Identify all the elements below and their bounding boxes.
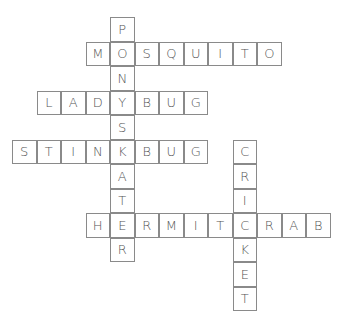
crossword-cell: M [86, 42, 111, 67]
crossword-cell: B [135, 91, 160, 116]
crossword-cell: G [184, 140, 209, 165]
crossword-cell: P [110, 17, 135, 42]
crossword-cell: H [86, 213, 111, 238]
crossword-cell: U [184, 42, 209, 67]
crossword-cell: U [159, 140, 184, 165]
crossword-cell: A [110, 164, 135, 189]
crossword-cell: T [208, 213, 233, 238]
crossword-cell: U [159, 91, 184, 116]
crossword-cell: N [110, 66, 135, 91]
crossword-cell: Q [159, 42, 184, 67]
crossword-cell: N [86, 140, 111, 165]
crossword-cell: Y [110, 91, 135, 116]
crossword-cell: G [184, 91, 209, 116]
crossword-cell: T [233, 42, 258, 67]
crossword-cell: I [233, 189, 258, 214]
crossword-cell: E [110, 213, 135, 238]
crossword-cell: K [110, 140, 135, 165]
crossword-cell: R [257, 213, 282, 238]
crossword-cell: I [184, 213, 209, 238]
crossword-cell: A [282, 213, 307, 238]
crossword-cell: D [86, 91, 111, 116]
crossword-cell: M [159, 213, 184, 238]
crossword-cell: E [233, 262, 258, 287]
crossword-cell: O [257, 42, 282, 67]
crossword-cell: C [233, 213, 258, 238]
crossword-cell: R [135, 213, 160, 238]
crossword-cell: I [61, 140, 86, 165]
crossword-cell: I [208, 42, 233, 67]
crossword-cell: A [61, 91, 86, 116]
crossword-cell: K [233, 238, 258, 263]
crossword-cell: S [12, 140, 37, 165]
crossword-cell: T [37, 140, 62, 165]
crossword-cell: R [233, 164, 258, 189]
crossword-cell: L [37, 91, 62, 116]
crossword-cell: S [110, 115, 135, 140]
crossword-cell: O [110, 42, 135, 67]
crossword-cell: S [135, 42, 160, 67]
crossword-cell: R [110, 238, 135, 263]
crossword-cell: B [135, 140, 160, 165]
crossword-cell: T [110, 189, 135, 214]
crossword-cell: B [306, 213, 331, 238]
crossword-cell: T [233, 287, 258, 312]
crossword-cell: C [233, 140, 258, 165]
